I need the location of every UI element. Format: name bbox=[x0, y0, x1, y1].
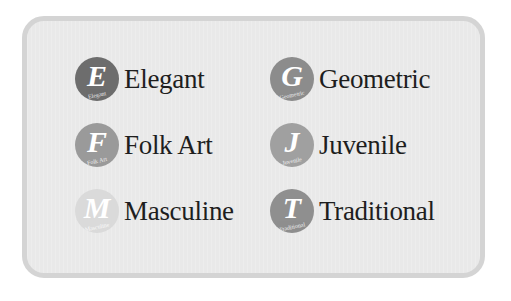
category-label: Traditional bbox=[319, 196, 435, 227]
category-label: Juvenile bbox=[319, 130, 407, 161]
category-elegant[interactable]: E Elegant Elegant bbox=[75, 56, 204, 102]
elegant-badge-icon: E Elegant bbox=[75, 57, 119, 101]
traditional-badge-icon: T Traditional bbox=[270, 189, 314, 233]
category-masculine[interactable]: M Masculine Masculine bbox=[75, 188, 234, 234]
folk-art-badge-icon: F Folk Art bbox=[75, 123, 119, 167]
category-folk-art[interactable]: F Folk Art Folk Art bbox=[75, 122, 212, 168]
category-label: Masculine bbox=[124, 196, 234, 227]
category-label: Geometric bbox=[319, 64, 430, 95]
category-geometric[interactable]: G Geometric Geometric bbox=[270, 56, 430, 102]
category-label: Folk Art bbox=[124, 130, 212, 161]
geometric-badge-icon: G Geometric bbox=[270, 57, 314, 101]
category-juvenile[interactable]: J Juvenile Juvenile bbox=[270, 122, 407, 168]
masculine-badge-icon: M Masculine bbox=[75, 189, 119, 233]
category-label: Elegant bbox=[124, 64, 204, 95]
juvenile-badge-icon: J Juvenile bbox=[270, 123, 314, 167]
category-traditional[interactable]: T Traditional Traditional bbox=[270, 188, 435, 234]
